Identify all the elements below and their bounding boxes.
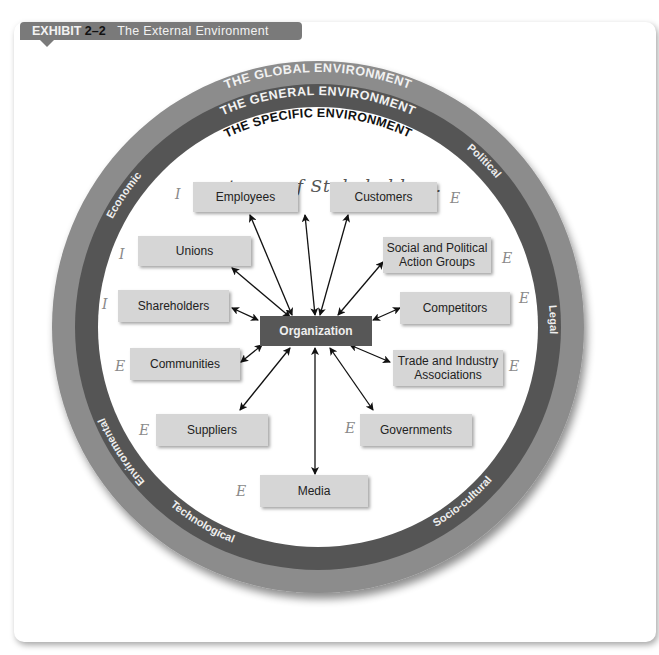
stakeholder-communities: Communities bbox=[130, 348, 240, 380]
svg-text:Legal: Legal bbox=[547, 305, 560, 335]
stakeholder-customers: Customers bbox=[330, 182, 437, 212]
exhibit-number: 2–2 bbox=[85, 24, 106, 38]
exhibit-title: The External Environment bbox=[117, 24, 269, 38]
mark-governments: E bbox=[345, 420, 355, 436]
exhibit-header: EXHIBIT 2–2 The External Environment bbox=[20, 22, 302, 40]
exhibit-tab-pointer bbox=[40, 40, 54, 47]
mark-shareholders: I bbox=[102, 296, 108, 312]
mark-employees: I bbox=[175, 186, 181, 202]
stakeholder-employees: Employees bbox=[193, 182, 298, 212]
stakeholder-competitors: Competitors bbox=[400, 292, 510, 324]
mark-media: E bbox=[236, 483, 246, 499]
stakeholder-shareholders: Shareholders bbox=[118, 290, 229, 322]
stakeholder-unions: Unions bbox=[138, 236, 251, 266]
stakeholder-governments: Governments bbox=[360, 414, 472, 446]
organization-box: Organization bbox=[260, 316, 372, 346]
mark-social-political: E bbox=[502, 250, 512, 266]
mark-communities: E bbox=[115, 358, 125, 374]
mark-competitors: E bbox=[519, 290, 529, 306]
mark-unions: I bbox=[119, 246, 125, 262]
mark-suppliers: E bbox=[139, 422, 149, 438]
factor-legal: Legal bbox=[547, 305, 560, 335]
mark-trade-industry: E bbox=[509, 358, 519, 374]
stakeholder-trade-industry-associations: Trade and Industry Associations bbox=[393, 350, 503, 386]
mark-customers: E bbox=[450, 190, 460, 206]
stakeholder-social-political-action-groups: Social and Political Action Groups bbox=[383, 237, 491, 273]
exhibit-label: EXHIBIT bbox=[32, 24, 81, 38]
stakeholder-suppliers: Suppliers bbox=[156, 414, 268, 446]
stakeholder-media: Media bbox=[260, 475, 368, 507]
